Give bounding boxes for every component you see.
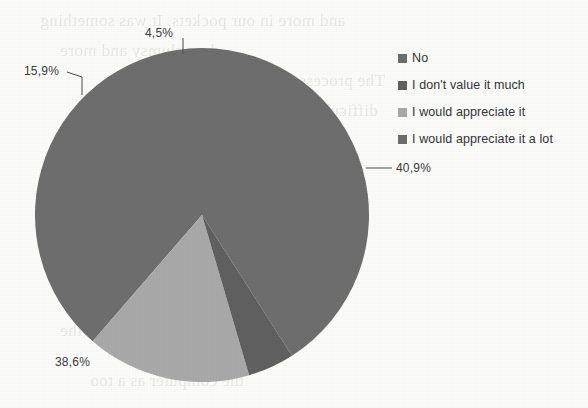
legend-swatch-icon (398, 135, 407, 144)
legend-label: I don't value it much (412, 78, 525, 92)
data-label-i-dont-value-it-much: 4,5% (145, 26, 173, 40)
legend-item-i-would-appreciate-it-a-lot[interactable]: I would appreciate it a lot (398, 126, 553, 152)
legend-item-i-dont-value-it-much[interactable]: I don't value it much (398, 72, 553, 98)
data-label-no: 40,9% (396, 161, 431, 175)
legend-swatch-icon (398, 81, 407, 90)
data-label-i-would-appreciate-it-a-lot: 38,6% (55, 355, 90, 369)
legend-swatch-icon (398, 108, 407, 117)
legend-label: I would appreciate it a lot (412, 132, 553, 146)
legend-item-i-would-appreciate-it[interactable]: I would appreciate it (398, 99, 553, 125)
legend-swatch-icon (398, 54, 407, 63)
chart-page: and more in our pockets. It was somethin… (0, 0, 588, 408)
legend-item-no[interactable]: No (398, 45, 553, 71)
legend-label: I would appreciate it (412, 105, 525, 119)
chart-legend: No I don't value it much I would appreci… (398, 45, 553, 153)
data-label-i-would-appreciate-it: 15,9% (24, 64, 59, 78)
leader-line-15-9 (67, 72, 82, 95)
legend-label: No (412, 51, 428, 65)
